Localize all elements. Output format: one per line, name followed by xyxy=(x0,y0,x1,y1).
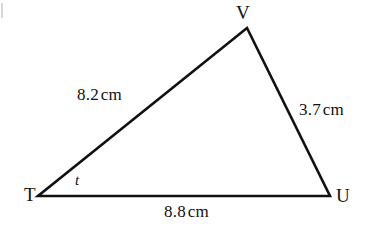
side-length-label-VU: 3.7cm xyxy=(299,101,344,118)
side-length-label-TU: 8.8cm xyxy=(164,203,209,220)
side-length-value-VU: 3.7 xyxy=(299,100,321,119)
vertex-label-T: T xyxy=(24,185,36,204)
side-length-label-TV: 8.2cm xyxy=(77,86,122,103)
side-length-unit-TU: cm xyxy=(188,202,209,221)
side-length-unit-TV: cm xyxy=(101,85,122,104)
angle-label-t: t xyxy=(75,173,79,188)
triangle-outline xyxy=(38,28,330,196)
vertex-label-U: U xyxy=(336,186,350,205)
side-length-value-TV: 8.2 xyxy=(77,85,99,104)
geometry-figure: T U V 8.2cm 3.7cm 8.8cm t xyxy=(0,0,380,235)
vertex-label-V: V xyxy=(236,3,250,22)
side-length-value-TU: 8.8 xyxy=(164,202,186,221)
side-length-unit-VU: cm xyxy=(323,100,344,119)
